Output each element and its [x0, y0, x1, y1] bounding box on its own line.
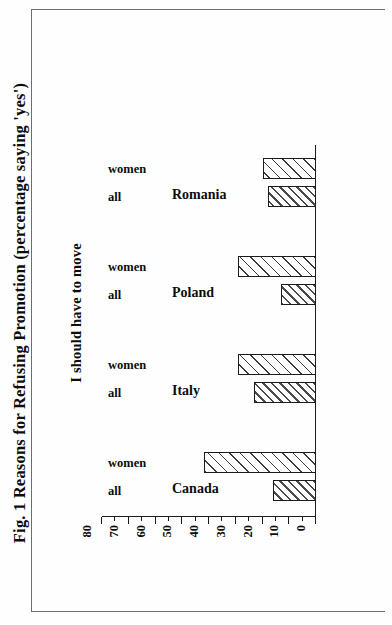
series-label-canada-women: women [108, 456, 146, 471]
tick-minor-15 [275, 517, 276, 522]
series-label-romania-all: all [108, 190, 121, 205]
tick-major-40 [208, 517, 209, 524]
bar-italy-women[interactable] [238, 354, 316, 375]
bar-romania-all[interactable] [268, 186, 316, 207]
tick-major-60 [155, 517, 156, 524]
series-label-romania-women: women [108, 162, 146, 177]
tick-minor-5 [302, 517, 303, 522]
tick-label-10: 10 [267, 525, 282, 551]
tick-major-20 [262, 517, 263, 524]
category-label-romania: Romania [172, 187, 226, 203]
tick-label-80: 80 [80, 525, 95, 551]
tick-label-50: 50 [160, 525, 175, 551]
tick-label-70: 70 [106, 525, 121, 551]
tick-minor-35 [221, 517, 222, 522]
figure-title: Fig. 1 Reasons for Refusing Promotion (p… [10, 13, 30, 613]
bar-romania-women[interactable] [263, 158, 317, 179]
series-label-canada-all: all [108, 484, 121, 499]
series-label-italy-women: women [108, 358, 146, 373]
bar-group-canada: allwomenCanada [102, 439, 316, 501]
rotated-figure-wrapper: Fig. 1 Reasons for Refusing Promotion (p… [0, 0, 392, 625]
category-label-italy: Italy [172, 383, 200, 399]
bar-canada-all[interactable] [273, 480, 316, 501]
series-label-poland-women: women [108, 260, 146, 275]
bar-italy-all[interactable] [254, 382, 316, 403]
tick-label-0: 0 [294, 525, 309, 551]
bar-canada-women[interactable] [204, 452, 316, 473]
tick-major-10 [288, 517, 289, 524]
tick-minor-55 [168, 517, 169, 522]
figure-canvas: Fig. 1 Reasons for Refusing Promotion (p… [6, 13, 386, 613]
tick-label-30: 30 [213, 525, 228, 551]
tick-major-70 [128, 517, 129, 524]
tick-label-60: 60 [133, 525, 148, 551]
bar-poland-women[interactable] [238, 256, 316, 277]
series-label-italy-all: all [108, 386, 121, 401]
tick-label-40: 40 [187, 525, 202, 551]
value-axis-line [102, 516, 316, 517]
tick-major-0 [315, 517, 316, 524]
tick-major-30 [235, 517, 236, 524]
tick-minor-65 [141, 517, 142, 522]
tick-label-20: 20 [240, 525, 255, 551]
tick-major-50 [181, 517, 182, 524]
category-label-poland: Poland [172, 285, 214, 301]
figure-subtitle: I should have to move [68, 13, 85, 613]
tick-minor-25 [248, 517, 249, 522]
tick-major-80 [101, 517, 102, 524]
bar-group-romania: allwomenRomania [102, 145, 316, 207]
tick-minor-45 [195, 517, 196, 522]
tick-minor-75 [114, 517, 115, 522]
bar-group-poland: allwomenPoland [102, 243, 316, 305]
series-label-poland-all: all [108, 288, 121, 303]
bar-poland-all[interactable] [281, 284, 316, 305]
bar-group-italy: allwomenItaly [102, 341, 316, 403]
category-label-canada: Canada [172, 481, 219, 497]
scanned-figure-page: Fig. 1 Reasons for Refusing Promotion (p… [0, 0, 392, 625]
plot-area: 01020304050607080 allwomenCanadaallwomen… [102, 145, 316, 517]
